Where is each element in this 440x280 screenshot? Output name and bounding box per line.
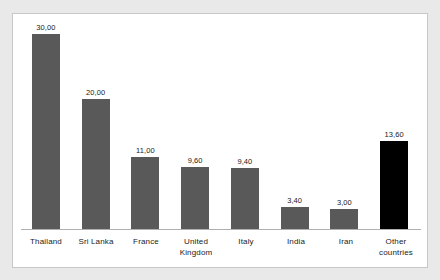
bar-group: 11,00: [121, 22, 171, 229]
x-axis-tick-label: Sri Lanka: [71, 236, 121, 247]
x-axis-tick-label: Italy: [221, 236, 271, 247]
bar-group: 9,60: [170, 22, 220, 229]
bar-group: 30,00: [21, 22, 71, 229]
x-axis-tick-label-line: France: [121, 236, 171, 247]
bar-value-label: 3,00: [337, 199, 352, 207]
x-axis-line: [21, 229, 421, 230]
bar-value-label: 13,60: [384, 131, 403, 139]
bar-rect[interactable]: [330, 209, 358, 229]
x-axis-tick-label-line: India: [271, 236, 321, 247]
x-axis-tick-label-line: Thailand: [21, 236, 71, 247]
bar-rect[interactable]: [380, 141, 408, 229]
x-axis-tick-label-line: Italy: [221, 236, 271, 247]
x-axis-tick-label: Thailand: [21, 236, 71, 247]
bar-value-label: 9,60: [188, 157, 203, 165]
x-axis-tick-label-line: Iran: [321, 236, 371, 247]
x-axis-tick-label-line: Other: [371, 236, 421, 247]
plot-area: 30,0020,0011,009,609,403,403,0013,60: [21, 22, 419, 229]
bar-group: 20,00: [71, 22, 121, 229]
x-axis-tick-label-line: United: [171, 236, 221, 247]
x-axis-tick-label: UnitedKingdom: [171, 236, 221, 258]
x-axis-tick-label: Othercountries: [371, 236, 421, 258]
bar-value-label: 9,40: [237, 158, 252, 166]
bar-rect[interactable]: [281, 207, 309, 229]
chart-frame: 30,0020,0011,009,609,403,403,0013,60 Tha…: [12, 13, 428, 268]
x-axis-tick-label-line: countries: [371, 247, 421, 258]
x-axis-tick-label-line: Sri Lanka: [71, 236, 121, 247]
x-axis-tick-label: France: [121, 236, 171, 247]
bar-group: 9,40: [220, 22, 270, 229]
bar-rect[interactable]: [181, 167, 209, 229]
bar-series: 30,0020,0011,009,609,403,403,0013,60: [21, 22, 419, 229]
bar-rect[interactable]: [231, 168, 259, 229]
x-axis-tick-label: Iran: [321, 236, 371, 247]
bar-value-label: 20,00: [86, 89, 105, 97]
x-axis-category-labels: ThailandSri LankaFranceUnitedKingdomItal…: [21, 236, 421, 258]
x-axis-tick-label: India: [271, 236, 321, 247]
bar-value-label: 30,00: [36, 24, 55, 32]
bar-rect[interactable]: [32, 34, 60, 229]
bar-group: 3,00: [320, 22, 370, 229]
x-axis-tick-label-line: Kingdom: [171, 247, 221, 258]
bar-group: 3,40: [270, 22, 320, 229]
bar-rect[interactable]: [82, 99, 110, 229]
bar-rect[interactable]: [131, 157, 159, 229]
bar-value-label: 3,40: [287, 197, 302, 205]
bar-value-label: 11,00: [136, 147, 155, 155]
bar-group: 13,60: [369, 22, 419, 229]
